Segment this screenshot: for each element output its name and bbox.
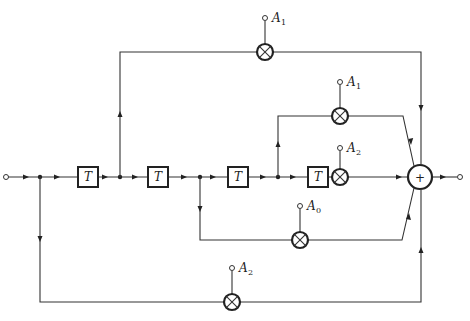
multiplier-main: A 2 xyxy=(332,141,361,185)
delay-T3: T xyxy=(228,167,248,187)
multiplier-upper-mid: A 1 xyxy=(332,75,361,124)
svg-text:T: T xyxy=(234,170,243,184)
svg-text:A: A xyxy=(238,261,248,275)
multiplier-bottom: A 2 xyxy=(224,261,253,310)
svg-text:2: 2 xyxy=(248,268,253,277)
top-feed-path xyxy=(118,52,424,177)
svg-text:0: 0 xyxy=(316,206,321,215)
delay-T2: T xyxy=(148,167,168,187)
svg-text:A: A xyxy=(346,75,356,89)
output-terminal xyxy=(458,175,463,180)
adder: + xyxy=(408,165,432,189)
fir-filter-diagram: T T T T A 2 + A 1 xyxy=(0,0,470,321)
svg-text:A: A xyxy=(306,199,316,213)
upper-mid-feed-path xyxy=(276,116,415,177)
svg-text:1: 1 xyxy=(356,82,361,91)
svg-text:1: 1 xyxy=(281,18,286,27)
svg-text:T: T xyxy=(84,170,93,184)
svg-text:A: A xyxy=(271,11,281,25)
svg-text:T: T xyxy=(314,170,323,184)
diagram-svg: T T T T A 2 + A 1 xyxy=(0,0,470,321)
input-terminal xyxy=(4,175,9,180)
multiplier-lower-mid: A 0 xyxy=(292,199,321,248)
svg-text:+: + xyxy=(415,171,425,185)
delay-T4: T xyxy=(308,167,328,187)
delay-T1: T xyxy=(78,167,98,187)
svg-text:T: T xyxy=(154,170,163,184)
svg-text:2: 2 xyxy=(356,148,361,157)
multiplier-top: A 1 xyxy=(257,11,286,60)
svg-text:A: A xyxy=(346,141,356,155)
